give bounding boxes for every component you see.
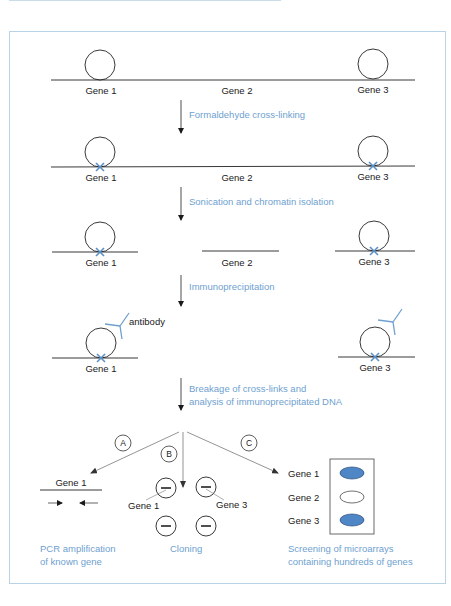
row3-gene2-label: Gene 2 xyxy=(221,257,252,268)
row4-gene1-label: Gene 1 xyxy=(85,363,116,374)
gene3-loop xyxy=(358,49,388,79)
step1-label: Formaldehyde cross-linking xyxy=(189,109,305,121)
row1-gene3-label: Gene 3 xyxy=(357,84,388,95)
clone-gene3-label: Gene 3 xyxy=(216,499,247,510)
microarray-caption-line1: Screening of microarrays xyxy=(288,542,394,555)
row2-gene3-label: Gene 3 xyxy=(357,171,388,182)
microarray-slide xyxy=(330,459,374,534)
branch-c-letter: C xyxy=(241,435,257,451)
step4-label-line2: analysis of immunoprecipitated DNA xyxy=(189,396,342,408)
pcr-diagram xyxy=(40,490,102,503)
pcr-caption-line1: PCR amplification xyxy=(40,542,116,555)
cloning-caption: Cloning xyxy=(170,542,202,555)
step3-label: Immunoprecipitation xyxy=(189,281,275,293)
row1-gene1-label: Gene 1 xyxy=(85,85,116,96)
branch-a-letter: A xyxy=(115,435,131,451)
row3-gene1-label: Gene 1 xyxy=(85,257,116,268)
antibody-icon xyxy=(105,313,129,339)
row2-crosslinked xyxy=(51,136,415,171)
row3-gene3-label: Gene 3 xyxy=(358,256,389,267)
row2-gene1-label: Gene 1 xyxy=(85,172,116,183)
spot-gene2 xyxy=(340,491,364,503)
row1-chromatin xyxy=(51,49,415,80)
row1-gene2-label: Gene 2 xyxy=(221,85,252,96)
spot-gene3 xyxy=(340,514,364,526)
spot-gene1 xyxy=(340,467,364,479)
row2-gene2-label: Gene 2 xyxy=(221,172,252,183)
step2-label: Sonication and chromatin isolation xyxy=(189,196,334,208)
step4-label-line1: Breakage of cross-links and xyxy=(189,383,306,395)
microarray-gene3-label: Gene 3 xyxy=(288,515,319,526)
row3-fragments xyxy=(52,221,415,256)
microarray-gene1-label: Gene 1 xyxy=(288,468,319,479)
microarray-caption-line2: containing hundreds of genes xyxy=(288,555,413,568)
branch-b-letter: B xyxy=(161,446,177,462)
antibody-icon xyxy=(378,309,402,335)
gene1-loop xyxy=(85,50,115,80)
pcr-caption-line2: of known gene xyxy=(40,555,102,568)
pcr-gene-label: Gene 1 xyxy=(55,477,86,488)
antibody-label: antibody xyxy=(129,316,165,327)
microarray-gene2-label: Gene 2 xyxy=(288,492,319,503)
row4-gene3-label: Gene 3 xyxy=(359,362,390,373)
clone-gene1-label: Gene 1 xyxy=(128,500,159,511)
row4-immunoprecipitated xyxy=(52,309,415,362)
